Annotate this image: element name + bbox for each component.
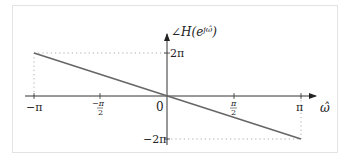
x-tick-neg-pi: −π bbox=[26, 101, 42, 114]
x-tick-neg-half-pi-num: −π bbox=[92, 99, 105, 108]
x-tick-half-pi-den: 2 bbox=[231, 108, 236, 117]
x-axis-label: ω̂ bbox=[320, 101, 330, 115]
x-tick-half-pi-num: π bbox=[230, 99, 237, 108]
phase-plot: ∠H(ejω̂) 2π −2π −π −π 2 0 π 2 π ω̂ bbox=[0, 0, 348, 158]
x-tick-origin: 0 bbox=[156, 100, 164, 114]
y-tick-2pi: 2π bbox=[170, 47, 184, 60]
y-axis-label: ∠H(ejω̂) bbox=[171, 25, 217, 39]
x-tick-pi: π bbox=[296, 101, 303, 114]
x-tick-neg-half-pi-den: 2 bbox=[98, 108, 103, 117]
y-tick-neg-2pi: −2π bbox=[143, 133, 166, 146]
